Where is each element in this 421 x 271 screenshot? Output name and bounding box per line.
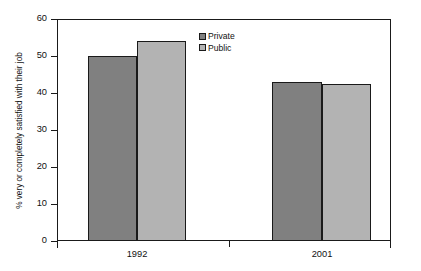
legend-swatch-private-icon: [199, 33, 206, 40]
bar-2001-public: [322, 84, 371, 241]
x-tick-right-edge: [390, 241, 391, 248]
x-tick-left-edge: [57, 241, 58, 248]
x-axis-label-1992: 1992: [112, 250, 162, 259]
y-tick-label-50: 50: [7, 51, 47, 60]
y-tick-label-0: 0: [7, 236, 47, 245]
x-axis-label-2001: 2001: [297, 250, 347, 259]
y-tick-label-60: 60: [7, 14, 47, 23]
legend-item-public: Public: [199, 44, 235, 53]
legend-swatch-public-icon: [199, 44, 206, 51]
bar-1992-public: [137, 41, 186, 241]
bar-chart: % very or completely satisfied with thei…: [0, 0, 421, 271]
legend-item-private: Private: [199, 32, 235, 41]
y-tick-label-20: 20: [7, 162, 47, 171]
legend-label-public: Public: [208, 44, 231, 53]
legend: Private Public: [199, 32, 235, 52]
y-tick-label-40: 40: [7, 88, 47, 97]
x-tick-group-divider: [229, 241, 230, 247]
bar-2001-private: [272, 82, 322, 241]
bar-1992-private: [88, 56, 137, 241]
y-tick-label-30: 30: [7, 125, 47, 134]
y-tick-label-10: 10: [7, 199, 47, 208]
legend-label-private: Private: [208, 32, 235, 41]
